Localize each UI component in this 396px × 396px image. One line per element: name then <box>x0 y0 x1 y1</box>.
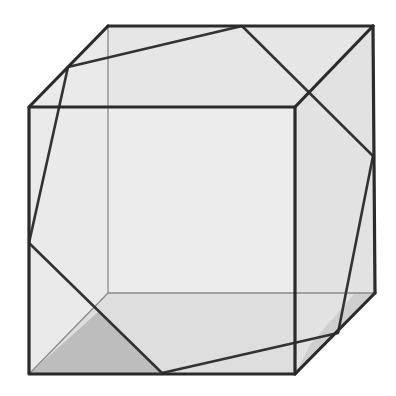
cube-diagram <box>0 0 396 396</box>
